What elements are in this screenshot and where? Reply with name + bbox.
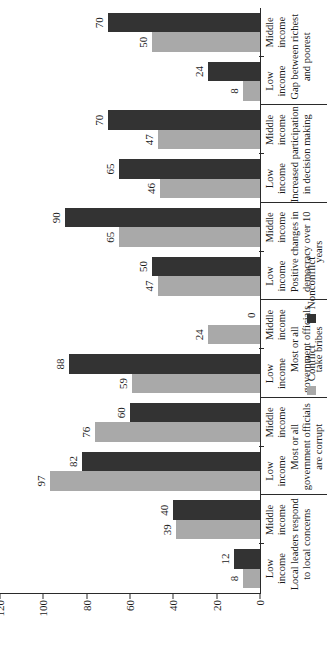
bar-value-label: 40 [159, 505, 170, 516]
y-tick-label: 40 [168, 600, 178, 611]
income-label: Lowincome [261, 154, 288, 203]
bar-conflict: 24 [208, 325, 260, 345]
bar-conflict: 47 [158, 276, 260, 296]
y-axis-title-wrap: % communities [0, 628, 328, 644]
bar-nonconflict: 12 [234, 549, 260, 569]
bar-value-label: 97 [36, 475, 47, 486]
bar-value-label: 8 [229, 576, 240, 582]
bar-value-label: 0 [246, 312, 257, 318]
y-tick-mark [216, 594, 217, 599]
income-label: Middleincome [261, 203, 288, 252]
y-tick-label: 0 [255, 600, 265, 606]
y-tick-mark [130, 594, 131, 599]
y-tick-mark [43, 594, 44, 599]
bar-value-label: 59 [118, 378, 129, 389]
bar-conflict: 8 [243, 81, 260, 101]
income-label-line: Low [264, 447, 276, 496]
y-axis-ticks: 020406080100120 [0, 594, 260, 628]
bar-value-label: 47 [144, 134, 155, 145]
y-tick-label: 100 [38, 600, 48, 617]
bar-value-label: 88 [55, 358, 66, 369]
bar-value-label: 50 [138, 261, 149, 272]
bar-conflict: 59 [132, 374, 260, 394]
bar-conflict: 46 [160, 179, 260, 199]
bar-conflict: 76 [95, 422, 260, 442]
income-label: Middleincome [261, 398, 288, 447]
income-label: Middleincome [261, 8, 288, 57]
income-label-line: Low [264, 154, 276, 203]
y-tick-label: 60 [125, 600, 135, 611]
income-label-line: income [276, 154, 288, 203]
bar-nonconflict: 60 [130, 403, 260, 423]
bar-value-label: 46 [146, 183, 157, 194]
income-label-line: income [276, 544, 288, 593]
bar-value-label: 90 [51, 212, 62, 223]
bar-conflict: 39 [176, 520, 261, 540]
income-label-line: income [276, 301, 288, 350]
bar-nonconflict: 82 [82, 452, 260, 472]
income-label: Lowincome [261, 252, 288, 301]
income-label: Lowincome [261, 447, 288, 496]
bar-nonconflict: 88 [69, 354, 260, 374]
income-label-line: income [276, 203, 288, 252]
y-tick-label: 120 [0, 600, 5, 617]
legend-label: Conflict [305, 345, 317, 381]
income-label-line: Middle [264, 203, 276, 252]
y-tick-label: 80 [82, 600, 92, 611]
income-label-line: income [276, 398, 288, 447]
bar-nonconflict: 40 [173, 500, 260, 520]
bar-value-label: 65 [105, 232, 116, 243]
bar-nonconflict: 90 [65, 208, 260, 228]
rotated-chart-stage: % communities 020406080100120 8123940978… [0, 0, 328, 652]
income-label: Middleincome [261, 496, 288, 545]
income-label-line: income [276, 349, 288, 398]
income-label-line: income [276, 496, 288, 545]
bar-value-label: 12 [220, 553, 231, 564]
chart-legend: ConflictNonconflict [300, 0, 322, 652]
income-label-line: Low [264, 349, 276, 398]
bar-value-label: 39 [162, 524, 173, 535]
income-label-line: income [276, 57, 288, 106]
income-label-line: income [276, 106, 288, 155]
bar-value-label: 8 [229, 88, 240, 94]
bar-nonconflict: 65 [119, 159, 260, 179]
bar-value-label: 60 [116, 407, 127, 418]
bar-conflict: 47 [158, 130, 260, 150]
chart-page: % communities 020406080100120 8123940978… [0, 0, 328, 652]
legend-swatch-nonconflict [307, 314, 316, 323]
bar-value-label: 65 [105, 163, 116, 174]
legend-label: Nonconflict [305, 257, 317, 310]
income-label: Lowincome [261, 544, 288, 593]
income-label-line: Middle [264, 398, 276, 447]
y-tick-mark [260, 594, 261, 599]
y-tick-mark [0, 594, 1, 599]
income-label-line: income [276, 252, 288, 301]
bar-value-label: 24 [194, 329, 205, 340]
bar-conflict: 65 [119, 227, 260, 247]
bars-area: 8123940978276605988240475065904665477082… [0, 8, 260, 593]
bar-conflict: 50 [152, 32, 260, 52]
bar-value-label: 47 [144, 280, 155, 291]
bar-value-label: 50 [138, 37, 149, 48]
income-label: Lowincome [261, 349, 288, 398]
legend-item: Conflict [305, 345, 317, 395]
bar-nonconflict: 70 [108, 13, 260, 33]
income-label-line: Low [264, 544, 276, 593]
legend-swatch-conflict [307, 386, 316, 395]
income-label: Middleincome [261, 301, 288, 350]
income-label-line: Middle [264, 496, 276, 545]
bar-conflict: 8 [243, 569, 260, 589]
income-label-line: Middle [264, 8, 276, 57]
bar-value-label: 24 [194, 66, 205, 77]
bar-nonconflict: 50 [152, 257, 260, 277]
income-label-line: Low [264, 252, 276, 301]
income-label-line: income [276, 8, 288, 57]
bar-value-label: 70 [94, 17, 105, 28]
income-label-line: Low [264, 57, 276, 106]
y-axis-line [0, 593, 260, 594]
bar-value-label: 70 [94, 115, 105, 126]
bar-nonconflict: 24 [208, 62, 260, 82]
bar-value-label: 82 [68, 456, 79, 467]
income-label: Middleincome [261, 106, 288, 155]
y-tick-mark [173, 594, 174, 599]
